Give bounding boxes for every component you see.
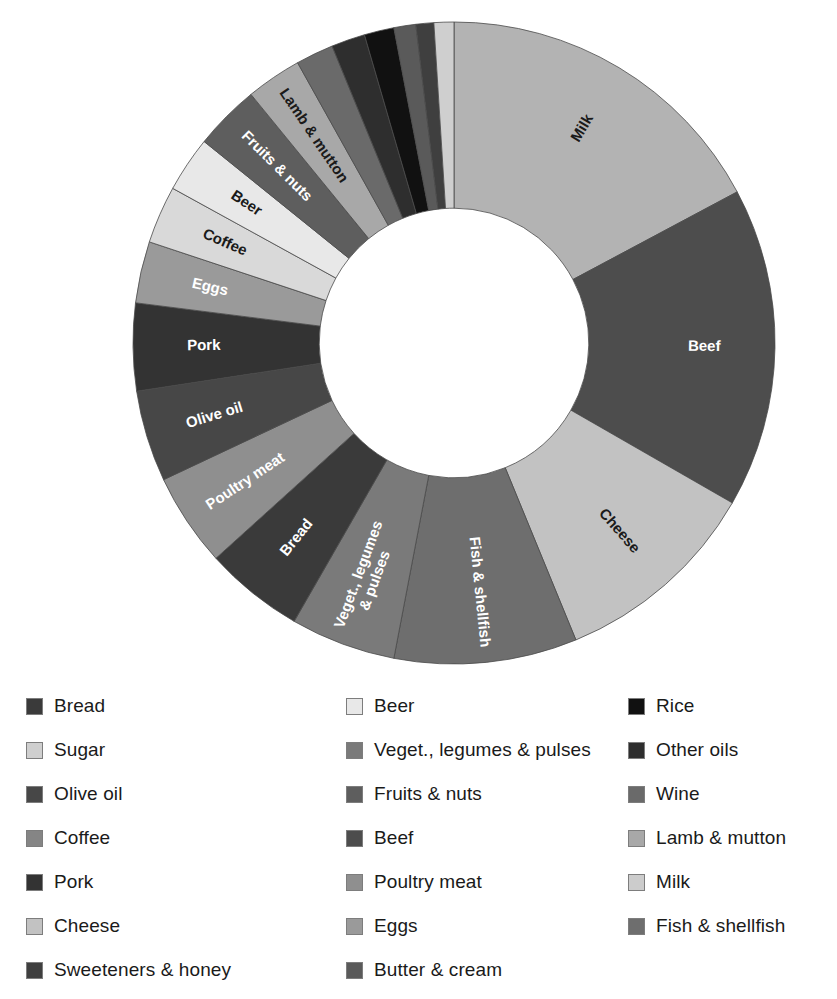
legend-swatch-icon: [26, 786, 43, 803]
legend-label: Olive oil: [54, 783, 122, 805]
legend-swatch-icon: [346, 742, 363, 759]
legend-item[interactable]: Bread: [26, 684, 346, 728]
legend-swatch-icon: [346, 698, 363, 715]
legend-label: Sugar: [54, 739, 105, 761]
legend-swatch-icon: [628, 874, 645, 891]
legend-item[interactable]: Wine: [628, 772, 837, 816]
legend-label: Fish & shellfish: [656, 915, 785, 937]
legend-label: Beer: [374, 695, 415, 717]
donut-chart: MilkBeefCheeseFish & shellfishVeget., le…: [0, 0, 837, 680]
slice-label: Pork: [187, 336, 221, 353]
legend-label: Pork: [54, 871, 93, 893]
legend-swatch-icon: [628, 698, 645, 715]
legend-item[interactable]: Pork: [26, 860, 346, 904]
legend-item[interactable]: Coffee: [26, 816, 346, 860]
legend-swatch-icon: [628, 742, 645, 759]
legend-label: Cheese: [54, 915, 120, 937]
legend-swatch-icon: [26, 962, 43, 979]
slices-group: [133, 22, 775, 664]
legend-label: Sweeteners & honey: [54, 959, 231, 981]
legend-swatch-icon: [346, 786, 363, 803]
legend-label: Beef: [374, 827, 414, 849]
legend-label: Poultry meat: [374, 871, 482, 893]
legend-label: Veget., legumes & pulses: [374, 739, 591, 761]
legend-swatch-icon: [628, 786, 645, 803]
legend-swatch-icon: [346, 874, 363, 891]
legend-swatch-icon: [26, 830, 43, 847]
legend-item[interactable]: Milk: [628, 860, 837, 904]
legend-label: Bread: [54, 695, 105, 717]
legend-item[interactable]: Beer: [346, 684, 628, 728]
legend-item[interactable]: Sweeteners & honey: [26, 948, 346, 992]
legend-item[interactable]: Rice: [628, 684, 837, 728]
legend-item[interactable]: Lamb & mutton: [628, 816, 837, 860]
legend-swatch-icon: [26, 918, 43, 935]
legend-item[interactable]: Olive oil: [26, 772, 346, 816]
legend-item[interactable]: Fruits & nuts: [346, 772, 628, 816]
legend-swatch-icon: [628, 830, 645, 847]
slice-label: Beef: [688, 337, 722, 355]
legend-swatch-icon: [346, 918, 363, 935]
legend-swatch-icon: [346, 830, 363, 847]
legend-item[interactable]: Cheese: [26, 904, 346, 948]
legend-label: Wine: [656, 783, 700, 805]
legend-label: Other oils: [656, 739, 738, 761]
legend-label: Butter & cream: [374, 959, 502, 981]
legend-item[interactable]: Butter & cream: [346, 948, 628, 992]
legend-label: Eggs: [374, 915, 418, 937]
legend-item[interactable]: Eggs: [346, 904, 628, 948]
chart-legend: BreadSugarOlive oilCoffeePorkCheeseSweet…: [0, 684, 837, 999]
legend-label: Coffee: [54, 827, 110, 849]
legend-label: Lamb & mutton: [656, 827, 786, 849]
legend-swatch-icon: [26, 742, 43, 759]
legend-item[interactable]: Sugar: [26, 728, 346, 772]
donut-chart-svg: MilkBeefCheeseFish & shellfishVeget., le…: [0, 0, 837, 680]
legend-label: Rice: [656, 695, 694, 717]
legend-swatch-icon: [26, 874, 43, 891]
legend-item[interactable]: Fish & shellfish: [628, 904, 837, 948]
legend-label: Fruits & nuts: [374, 783, 482, 805]
legend-item[interactable]: Veget., legumes & pulses: [346, 728, 628, 772]
legend-item[interactable]: Poultry meat: [346, 860, 628, 904]
legend-swatch-icon: [628, 918, 645, 935]
legend-item[interactable]: Other oils: [628, 728, 837, 772]
legend-label: Milk: [656, 871, 690, 893]
legend-swatch-icon: [346, 962, 363, 979]
legend-item[interactable]: Beef: [346, 816, 628, 860]
legend-swatch-icon: [26, 698, 43, 715]
